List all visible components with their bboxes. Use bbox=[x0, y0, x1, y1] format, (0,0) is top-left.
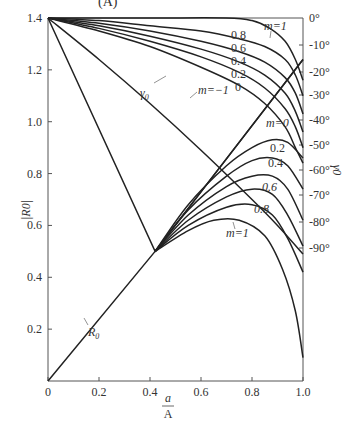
y2-tick-label: -10° bbox=[309, 38, 330, 52]
top-0-label: 0 bbox=[235, 80, 241, 94]
m-neg1-leader bbox=[190, 92, 197, 98]
m1-bottom-label: m=1 bbox=[226, 226, 249, 240]
top-04-label: 0.4 bbox=[231, 54, 246, 68]
gamma0-leader bbox=[154, 76, 166, 83]
x-axis-title-numerator: a bbox=[165, 391, 171, 405]
y2-tick-label: -80° bbox=[309, 215, 330, 229]
curve-r0 bbox=[48, 59, 303, 381]
top-06-label: 0.6 bbox=[231, 41, 246, 55]
y2-axis-title: γ0 bbox=[330, 165, 344, 176]
y2-tick-label: -40° bbox=[309, 113, 330, 127]
y-tick-label: 0.2 bbox=[27, 322, 42, 336]
top-08-label: 0.8 bbox=[231, 28, 246, 42]
mag-02-label: 0.2 bbox=[270, 141, 285, 155]
x-tick-label: 0.6 bbox=[194, 385, 209, 399]
y-tick-label: 1.2 bbox=[27, 63, 42, 77]
right-axis-ticks: 0°-10°-20°-30°-40°-50°-60°-70°-80°-90° bbox=[299, 11, 330, 255]
y2-tick-label: -30° bbox=[309, 88, 330, 102]
x-axis-ticks: 00.20.40.60.81.0 bbox=[45, 377, 311, 399]
y2-tick-label: -50° bbox=[309, 138, 330, 152]
y2-tick-label: -60° bbox=[309, 163, 330, 177]
m1-top-label: m=1 bbox=[264, 19, 287, 33]
gamma0-label: γ0 bbox=[140, 86, 149, 102]
curve-0-reference-line bbox=[48, 18, 303, 251]
curve-0-m-1 bbox=[48, 18, 303, 254]
x-tick-label: 0.4 bbox=[143, 385, 158, 399]
mag-08-label: 0.8 bbox=[254, 202, 269, 216]
y2-tick-label: 0° bbox=[309, 11, 320, 25]
x-tick-label: 1.0 bbox=[296, 385, 311, 399]
curve-labels: R0 γ0 m=−1 m=1 0.8 0.6 0.4 0.2 0 m=0 0.2… bbox=[87, 19, 289, 341]
x-tick-label: 0.8 bbox=[245, 385, 260, 399]
m-neg1-label: m=−1 bbox=[198, 83, 229, 97]
y2-tick-label: -20° bbox=[309, 65, 330, 79]
y2-tick-label: -70° bbox=[309, 188, 330, 202]
m0-mag-label: m=0 bbox=[266, 116, 289, 130]
y-tick-label: 0.8 bbox=[27, 167, 42, 181]
mag-06-label: 0.6 bbox=[262, 180, 277, 194]
x-tick-label: 0.2 bbox=[92, 385, 107, 399]
r0-leader bbox=[84, 318, 88, 325]
chart: (A) 1.41.21.00.80.60.40.2 00.20.40.60.81… bbox=[0, 0, 346, 427]
y-tick-label: 1.4 bbox=[27, 11, 42, 25]
mag-04-label: 0.4 bbox=[268, 156, 283, 170]
r0-label: R0 bbox=[87, 325, 99, 341]
x-tick-label: 0 bbox=[45, 385, 51, 399]
cropped-title: (A) bbox=[98, 0, 118, 10]
axes bbox=[48, 18, 303, 381]
y2-tick-label: -90° bbox=[309, 241, 330, 255]
plot-curves bbox=[48, 18, 303, 381]
curve-0-m-0-2 bbox=[48, 18, 303, 148]
x-axis-title-denominator: A bbox=[164, 407, 173, 421]
y-tick-label: 1.0 bbox=[27, 115, 42, 129]
y-tick-label: 0.4 bbox=[27, 270, 42, 284]
y-axis-title: |R0| bbox=[19, 200, 33, 220]
top-02-label: 0.2 bbox=[231, 67, 246, 81]
